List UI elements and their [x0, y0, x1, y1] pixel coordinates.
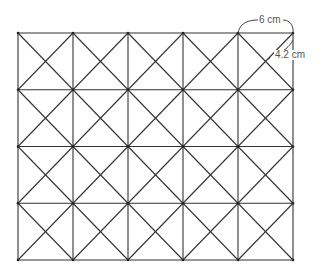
- diagonal-label: 4.2 cm: [274, 50, 306, 60]
- width-label: 6 cm: [258, 15, 282, 25]
- tiled-square-grid: [0, 0, 326, 274]
